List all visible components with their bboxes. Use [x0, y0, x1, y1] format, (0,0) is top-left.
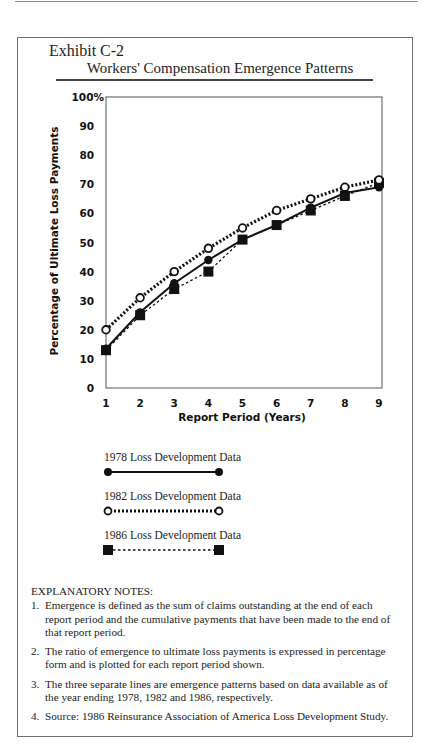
x-tick-label: 2: [136, 397, 143, 409]
x-axis-title: Report Period (Years): [178, 411, 306, 423]
data-point: [239, 224, 247, 232]
y-axis-ticks: 0102030405060708090100%: [72, 91, 105, 394]
note-number: 3.: [31, 678, 45, 705]
data-point: [102, 326, 110, 334]
y-tick-label: 40: [79, 266, 94, 278]
y-tick-label: 90: [79, 120, 94, 132]
y-tick-label: 50: [79, 237, 94, 249]
data-point: [307, 195, 315, 203]
note-item: 1. Emergence is defined as the sum of cl…: [31, 599, 401, 639]
note-item: 2. The ratio of emergence to ultimate lo…: [31, 645, 401, 672]
x-tick-label: 9: [375, 397, 382, 409]
data-point: [203, 267, 213, 277]
x-tick-label: 6: [273, 397, 280, 409]
data-point: [375, 176, 383, 184]
legend-1986-swatch: [103, 545, 224, 555]
legend-1978-swatch: [104, 468, 223, 476]
series-1978: [102, 183, 383, 353]
note-item: 3. The three separate lines are emergenc…: [31, 678, 401, 705]
y-tick-label: 30: [79, 295, 94, 307]
y-axis-title: Percentage of Ultimate Loss Payments: [48, 126, 60, 355]
series-lines: [101, 176, 384, 355]
explanatory-notes: EXPLANATORY NOTES: 1. Emergence is defin…: [31, 585, 401, 730]
data-point: [170, 279, 178, 287]
data-point: [102, 345, 110, 353]
note-item: 4. Source: 1986 Reinsurance Association …: [31, 710, 401, 723]
legend-label-1986: 1986 Loss Development Data: [104, 529, 241, 541]
data-point: [341, 183, 349, 191]
note-text: Source: 1986 Reinsurance Association of …: [45, 710, 401, 723]
x-tick-label: 3: [171, 397, 178, 409]
legend-1982-swatch: [105, 508, 223, 515]
x-tick-label: 8: [341, 397, 348, 409]
series-1986: [101, 178, 384, 355]
y-tick-label: 0: [87, 382, 94, 394]
notes-heading: EXPLANATORY NOTES:: [31, 585, 401, 598]
note-number: 1.: [31, 599, 45, 639]
x-tick-label: 1: [102, 397, 109, 409]
y-tick-label: 10: [79, 353, 94, 365]
data-point: [205, 245, 213, 253]
y-tick-label: 70: [79, 178, 94, 190]
note-text: Emergence is defined as the sum of claim…: [45, 599, 401, 639]
x-axis-ticks: 123456789: [102, 397, 382, 409]
data-point: [272, 221, 280, 229]
data-point: [238, 235, 246, 243]
data-point: [273, 207, 281, 215]
legend-label-1982: 1982 Loss Development Data: [104, 490, 241, 502]
data-point: [307, 203, 315, 211]
note-text: The three separate lines are emergence p…: [45, 678, 401, 705]
note-number: 4.: [31, 710, 45, 723]
x-tick-label: 7: [307, 397, 314, 409]
legend-label-1978: 1978 Loss Development Data: [104, 451, 241, 463]
data-point: [136, 308, 144, 316]
x-tick-label: 5: [239, 397, 246, 409]
data-point: [170, 268, 178, 276]
y-tick-label: 80: [79, 149, 94, 161]
note-text: The ratio of emergence to ultimate loss …: [45, 645, 401, 672]
x-tick-label: 4: [205, 397, 212, 409]
y-tick-label: 20: [79, 324, 94, 336]
note-number: 2.: [31, 645, 45, 672]
y-tick-label: 100%: [72, 91, 105, 103]
y-tick-label: 60: [79, 207, 94, 219]
data-point: [136, 294, 144, 302]
data-point: [204, 256, 212, 264]
